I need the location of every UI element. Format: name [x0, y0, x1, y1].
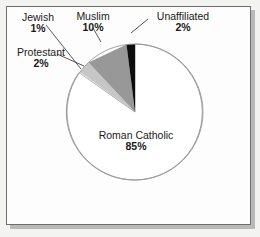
- slice-label-unaffiliated-value: 2%: [146, 22, 220, 33]
- slice-label-jewish: Jewish 1%: [12, 12, 64, 35]
- slice-label-jewish-value: 1%: [12, 23, 64, 34]
- slice-label-muslim: Muslim 10%: [66, 11, 120, 34]
- slice-label-roman-catholic: Roman Catholic 85%: [86, 130, 186, 153]
- slice-label-protestant-value: 2%: [6, 58, 76, 69]
- slice-label-protestant: Protestant 2%: [6, 47, 76, 70]
- slice-label-muslim-value: 10%: [66, 22, 120, 33]
- figure-canvas: Jewish 1% Muslim 10% Unaffiliated 2% Pro…: [0, 0, 260, 237]
- slice-label-roman-catholic-value: 85%: [86, 141, 186, 152]
- pie-chart-graphic: [0, 0, 260, 237]
- slice-label-unaffiliated: Unaffiliated 2%: [146, 11, 220, 34]
